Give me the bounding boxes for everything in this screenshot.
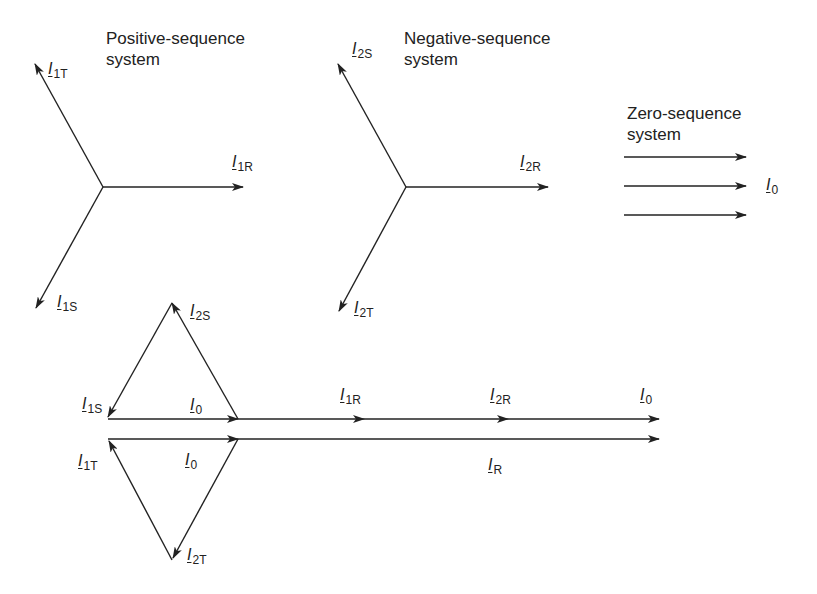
- label-symbol: I: [187, 546, 191, 563]
- label-symbol: I: [640, 386, 644, 403]
- label-subscript: 1R: [345, 393, 360, 407]
- zero-sequence-arrows: [624, 157, 746, 215]
- arrow-i2s: [338, 64, 406, 187]
- arrow-comp-i2t: [173, 439, 238, 558]
- label-subscript: 1S: [87, 402, 102, 416]
- label-subscript: 1R: [237, 160, 252, 174]
- phasor-arrows: [0, 0, 817, 594]
- label-i0-zero-system: I0: [766, 176, 778, 195]
- label-comp-i1t: I1T: [78, 452, 97, 471]
- label-subscript: 0: [771, 183, 778, 197]
- label-comp-i0-right: I0: [640, 386, 652, 405]
- label-comp-i2s: I2S: [190, 302, 210, 321]
- label-symbol: I: [352, 40, 356, 57]
- label-i2r: I2R: [520, 153, 541, 172]
- label-symbol: I: [520, 153, 524, 170]
- label-subscript: 2R: [495, 393, 510, 407]
- arrow-comp-i1t: [109, 441, 172, 560]
- label-subscript: 2R: [525, 160, 540, 174]
- label-comp-i1r: I1R: [340, 386, 361, 405]
- label-symbol: I: [766, 176, 770, 193]
- label-symbol: I: [490, 386, 494, 403]
- label-subscript: R: [493, 463, 502, 477]
- arrow-i1s: [36, 187, 103, 308]
- symmetrical-components-diagram: Positive-sequence system Negative-sequen…: [0, 0, 817, 594]
- label-symbol: I: [78, 452, 82, 469]
- label-subscript: 0: [195, 403, 202, 417]
- label-symbol: I: [340, 386, 344, 403]
- label-comp-i0-upper: I0: [190, 396, 202, 415]
- caption-positive-sequence: Positive-sequence system: [106, 28, 245, 70]
- label-comp-i2r: I2R: [490, 386, 511, 405]
- arrow-i2t: [339, 187, 406, 311]
- label-symbol: I: [232, 153, 236, 170]
- label-subscript: 1S: [62, 300, 77, 314]
- label-symbol: I: [57, 293, 61, 310]
- label-symbol: I: [190, 302, 194, 319]
- label-symbol: I: [185, 451, 189, 468]
- label-comp-i0-lower: I0: [185, 451, 197, 470]
- caption-zero-sequence: Zero-sequence system: [627, 103, 741, 145]
- label-symbol: I: [82, 395, 86, 412]
- label-symbol: I: [190, 396, 194, 413]
- positive-sequence-star: [35, 64, 243, 308]
- label-symbol: I: [48, 60, 52, 77]
- label-comp-i1s: I1S: [82, 395, 102, 414]
- negative-sequence-star: [338, 64, 548, 311]
- label-subscript: 1T: [83, 459, 97, 473]
- label-subscript: 2S: [357, 47, 372, 61]
- label-i2t: I2T: [354, 299, 373, 318]
- label-subscript: 1T: [53, 67, 67, 81]
- label-i2s: I2S: [352, 40, 372, 59]
- label-comp-i2t: I2T: [187, 546, 206, 565]
- label-subscript: 2T: [359, 306, 373, 320]
- arrow-comp-i1s: [108, 303, 172, 417]
- arrow-i1t: [35, 64, 103, 187]
- label-subscript: 0: [190, 458, 197, 472]
- label-i1r: I1R: [232, 153, 253, 172]
- composite-phasor-sum: [108, 303, 659, 560]
- label-symbol: I: [354, 299, 358, 316]
- label-i1t: I1T: [48, 60, 67, 79]
- label-symbol: I: [488, 456, 492, 473]
- label-i1s: I1S: [57, 293, 77, 312]
- caption-negative-sequence: Negative-sequence system: [404, 28, 550, 70]
- label-subscript: 2S: [195, 309, 210, 323]
- label-subscript: 2T: [192, 553, 206, 567]
- label-resultant-ir: IR: [488, 456, 502, 475]
- label-subscript: 0: [645, 393, 652, 407]
